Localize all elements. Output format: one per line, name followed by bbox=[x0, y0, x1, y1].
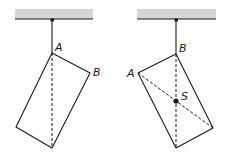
centre-of-mass-point bbox=[173, 98, 178, 103]
suspended-rectangles-diagram: A B B A S bbox=[0, 0, 232, 160]
right-figure: B A S bbox=[126, 9, 216, 148]
label-left-A: A bbox=[54, 41, 63, 54]
left-figure: A B bbox=[15, 9, 101, 148]
left-ceiling-shading bbox=[15, 9, 93, 19]
label-right-S: S bbox=[181, 90, 188, 103]
label-right-A: A bbox=[126, 67, 135, 80]
left-rectangle bbox=[16, 53, 90, 148]
label-right-B: B bbox=[179, 42, 187, 55]
right-ceiling-shading bbox=[137, 9, 216, 19]
label-left-B: B bbox=[93, 66, 101, 79]
